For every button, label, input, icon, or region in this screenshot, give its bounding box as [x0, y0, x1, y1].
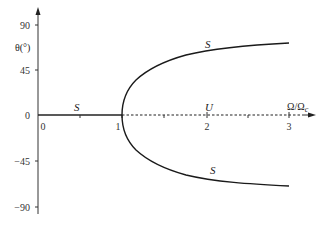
- label-s-trivial: S: [74, 101, 80, 113]
- y-tick-minus45: −45: [14, 156, 30, 167]
- y-tick-90: 90: [20, 20, 30, 31]
- x-axis-label: Ω/Ωc: [287, 101, 309, 114]
- x-tick-2: 2: [205, 121, 210, 132]
- x-axis-label-main: Ω/Ω: [287, 101, 305, 112]
- label-u-unstable: U: [205, 101, 214, 113]
- x-axis-label-sub: c: [305, 105, 309, 114]
- x-tick-0: 0: [41, 121, 46, 132]
- x-tick-3: 3: [287, 121, 292, 132]
- label-s-lower: S: [210, 164, 216, 176]
- y-tick-minus90: −90: [14, 202, 30, 213]
- x-axis-arrow-icon: [308, 113, 316, 118]
- y-axis-arrow-icon: [36, 7, 41, 15]
- y-axis-label: θ(°): [15, 42, 30, 54]
- x-tick-1: 1: [116, 121, 121, 132]
- y-tick-0: 0: [25, 110, 30, 121]
- bifurcation-chart: 90 45 0 −45 −90 0 1 2 3 θ(°) Ω/Ωc S U S …: [0, 0, 328, 228]
- label-s-upper: S: [205, 38, 211, 50]
- y-tick-45: 45: [20, 65, 30, 76]
